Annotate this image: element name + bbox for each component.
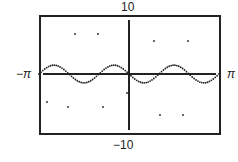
plot-area: [0, 0, 238, 162]
